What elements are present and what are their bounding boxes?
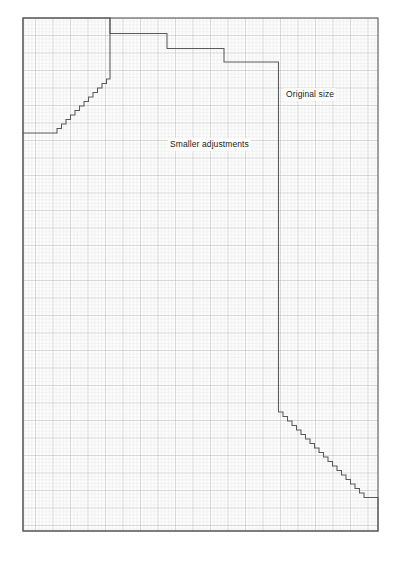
grid-diagram-svg xyxy=(0,0,393,564)
label-smaller-adjustments: Smaller adjustments xyxy=(168,138,251,151)
label-original-size: Original size xyxy=(284,88,336,101)
diagram-canvas: Original size Smaller adjustments xyxy=(0,0,393,564)
